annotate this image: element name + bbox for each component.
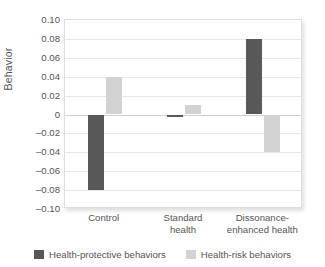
- bar-chart-figure: Behavior 0.100.080.060.040.020–0.02–0.04…: [0, 0, 325, 267]
- y-axis-tick-label: 0.10: [18, 14, 60, 25]
- gridline: [65, 58, 301, 59]
- legend-swatch-icon: [34, 250, 44, 259]
- bar-0-1: [167, 115, 183, 118]
- plot-area: [64, 19, 302, 208]
- gridline: [65, 190, 301, 191]
- category-label-line: enhanced health: [223, 224, 302, 236]
- y-axis-tick-label: –0.04: [18, 146, 60, 157]
- x-axis-category-label: Standardhealth: [143, 212, 222, 235]
- chart-legend: Health-protective behaviorsHealth-risk b…: [0, 246, 325, 262]
- category-label-line: Standard: [143, 212, 222, 224]
- legend-item[interactable]: Health-protective behaviors: [34, 249, 166, 260]
- y-axis-tick-label: 0.04: [18, 70, 60, 81]
- y-axis-tick-label: 0.02: [18, 89, 60, 100]
- y-axis-tick-labels: 0.100.080.060.040.020–0.02–0.04–0.06–0.0…: [18, 19, 60, 208]
- x-axis-category-label: Control: [64, 212, 143, 224]
- y-axis-title: Behavior: [2, 17, 16, 121]
- y-axis-tick-label: –0.06: [18, 165, 60, 176]
- bar-0-0: [88, 115, 104, 191]
- category-label-line: health: [143, 224, 222, 236]
- bar-1-2: [264, 115, 280, 153]
- y-axis-tick-label: –0.08: [18, 184, 60, 195]
- legend-swatch-icon: [186, 250, 196, 259]
- x-axis-category-labels: ControlStandardhealthDissonance-enhanced…: [64, 212, 302, 244]
- x-axis-category-label: Dissonance-enhanced health: [223, 212, 302, 235]
- y-axis-tick-label: 0: [18, 108, 60, 119]
- y-axis-tick-label: 0.08: [18, 32, 60, 43]
- gridline: [65, 39, 301, 40]
- bar-1-1: [185, 105, 201, 114]
- category-label-line: Control: [64, 212, 143, 224]
- bar-1-0: [106, 77, 122, 115]
- y-axis-tick-label: 0.06: [18, 51, 60, 62]
- legend-label: Health-protective behaviors: [49, 249, 166, 260]
- y-axis-tick-label: –0.10: [18, 203, 60, 214]
- category-label-line: Dissonance-: [223, 212, 302, 224]
- legend-item[interactable]: Health-risk behaviors: [186, 249, 291, 260]
- legend-label: Health-risk behaviors: [201, 249, 291, 260]
- gridline: [65, 96, 301, 97]
- gridline: [65, 77, 301, 78]
- bar-0-2: [246, 39, 262, 115]
- y-axis-tick-label: –0.02: [18, 127, 60, 138]
